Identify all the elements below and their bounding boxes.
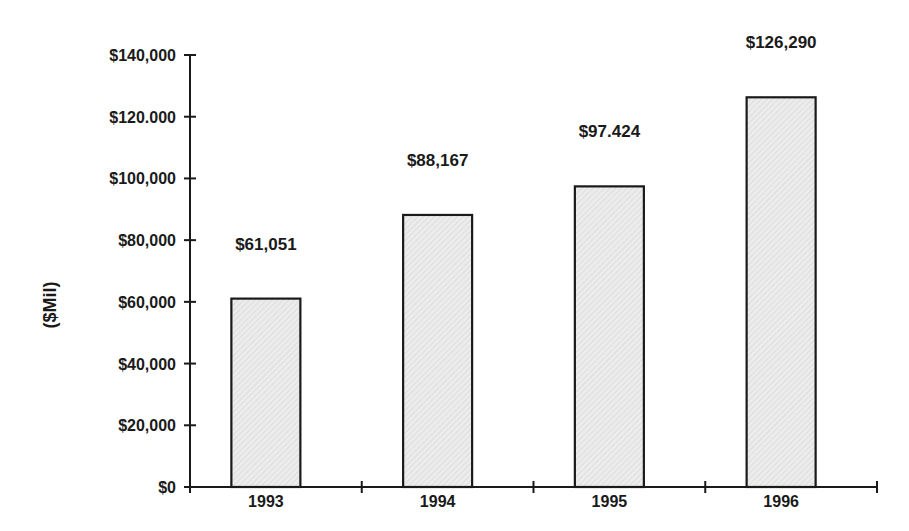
bar-1993	[231, 299, 300, 487]
data-labels: $61,051$88,167$97.424$126,290	[235, 33, 816, 253]
bars	[231, 97, 815, 487]
data-label-1994: $88,167	[407, 151, 468, 170]
y-axis-title-group: ($Mil)	[40, 281, 60, 328]
x-tick-label: 1996	[763, 493, 799, 510]
y-tick-label: $0	[158, 479, 176, 496]
y-tick-label: $140,000	[109, 47, 176, 64]
bar-chart: ($Mil) $0$20,000$40,000$60,000$80,000$10…	[0, 0, 909, 531]
y-axis: $0$20,000$40,000$60,000$80,000$100,000$1…	[109, 47, 196, 496]
data-label-1996: $126,290	[746, 33, 817, 52]
x-tick-label: 1993	[248, 493, 284, 510]
data-label-1995: $97.424	[579, 122, 641, 141]
x-tick-label: 1995	[592, 493, 628, 510]
y-tick-label: $80,000	[118, 232, 176, 249]
y-axis-title: ($Mil)	[40, 281, 60, 328]
bar-1996	[747, 97, 816, 487]
data-label-1993: $61,051	[235, 235, 296, 254]
y-tick-label: $60,000	[118, 294, 176, 311]
bar-1994	[403, 215, 472, 487]
y-tick-label: $100,000	[109, 170, 176, 187]
bar-1995	[575, 186, 644, 487]
y-tick-label: $40,000	[118, 356, 176, 373]
x-tick-label: 1994	[420, 493, 456, 510]
y-tick-label: $120.000	[109, 109, 176, 126]
y-tick-label: $20,000	[118, 417, 176, 434]
